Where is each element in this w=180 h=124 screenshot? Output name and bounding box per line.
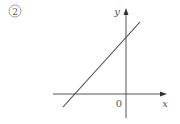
- y-axis-arrow-icon: [124, 8, 129, 15]
- x-axis-arrow-icon: [160, 92, 167, 97]
- coordinate-graph: 2 y 0 x: [0, 0, 180, 124]
- y-axis-label: y: [113, 6, 120, 17]
- x-axis-label: x: [162, 98, 168, 109]
- problem-number: 2: [12, 7, 18, 17]
- origin-label: 0: [116, 98, 122, 109]
